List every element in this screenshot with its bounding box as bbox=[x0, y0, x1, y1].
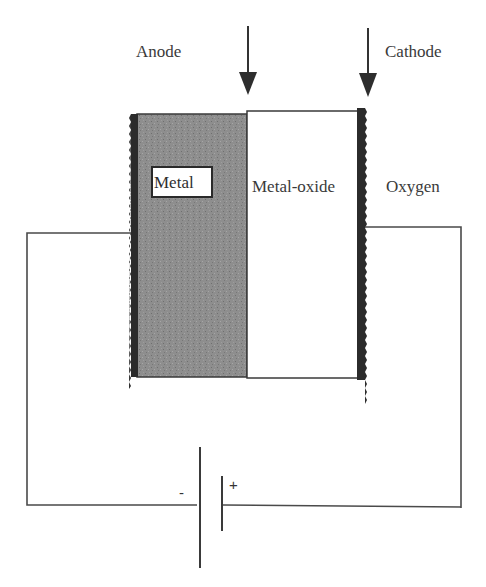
metal-label-box: Metal bbox=[151, 166, 213, 198]
cathode-arrow-icon bbox=[359, 28, 377, 97]
metal-oxide-layer bbox=[247, 111, 358, 378]
oxygen-label: Oxygen bbox=[386, 177, 440, 197]
battery-negative-sign: - bbox=[179, 484, 184, 501]
cathode-label: Cathode bbox=[385, 42, 442, 62]
battery-positive-sign: + bbox=[229, 476, 238, 493]
anode-arrow-icon bbox=[239, 26, 257, 95]
battery-icon bbox=[200, 447, 222, 568]
metal-oxide-label: Metal-oxide bbox=[252, 177, 335, 197]
cathode-electrode bbox=[357, 108, 367, 404]
anode-label: Anode bbox=[136, 42, 181, 62]
electrochemical-cell-diagram bbox=[0, 0, 486, 587]
anode-electrode bbox=[129, 114, 138, 389]
metal-label: Metal bbox=[154, 173, 194, 193]
metal-layer bbox=[137, 114, 247, 377]
